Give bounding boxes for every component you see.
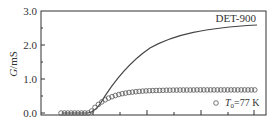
ytick-label: 3.0 (23, 5, 37, 17)
legend-circle-icon (214, 101, 219, 106)
legend-label: T0=77 K (225, 97, 260, 110)
y-ticks (41, 28, 45, 113)
ytick-label: 2.0 (23, 39, 37, 51)
x-ticks (93, 110, 254, 115)
series-label: DET-900 (215, 12, 256, 24)
ytick-label: 1.0 (23, 73, 37, 85)
chart: 0.0 1.0 2.0 3.0 G/mS DET-900 T0=77 K (0, 0, 274, 124)
ytick-label: 0.0 (23, 107, 37, 119)
y-axis-label: G/mS (7, 51, 19, 77)
